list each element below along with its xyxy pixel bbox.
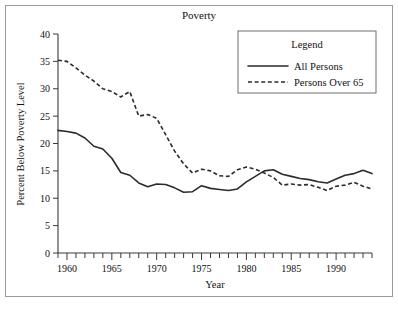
y-tick-label: 15 [40, 165, 50, 176]
x-axis: 1960196519701975198019851990 [57, 253, 372, 274]
x-axis-tick-labels: 1960196519701975198019851990 [57, 263, 346, 274]
chart-canvas: Poverty 0510152025303540 196019651970197… [0, 0, 398, 312]
y-axis-ticks [53, 34, 58, 253]
y-tick-label: 25 [40, 111, 50, 122]
x-tick-label: 1975 [192, 263, 212, 274]
y-tick-label: 20 [40, 138, 50, 149]
y-tick-label: 35 [40, 56, 50, 67]
legend: Legend All Persons Persons Over 65 [238, 31, 376, 93]
x-tick-label: 1970 [147, 263, 167, 274]
y-tick-label: 30 [40, 83, 50, 94]
x-tick-label: 1960 [57, 263, 77, 274]
x-tick-label: 1965 [102, 263, 122, 274]
y-axis-tick-labels: 0510152025303540 [40, 29, 50, 259]
legend-title: Legend [291, 39, 323, 50]
y-axis: 0510152025303540 [40, 29, 58, 259]
x-axis-label: Year [205, 279, 225, 290]
y-tick-label: 10 [40, 193, 50, 204]
y-tick-label: 0 [45, 248, 50, 259]
y-tick-label: 40 [40, 29, 50, 40]
chart-title: Poverty [182, 9, 217, 21]
legend-label-persons-over-65: Persons Over 65 [294, 77, 363, 88]
y-tick-label: 5 [45, 220, 50, 231]
x-tick-label: 1985 [281, 263, 301, 274]
x-tick-label: 1990 [326, 263, 346, 274]
poverty-chart-figure: Poverty 0510152025303540 196019651970197… [0, 0, 398, 312]
legend-label-all-persons: All Persons [294, 61, 343, 72]
y-axis-label: Percent Below Poverty Level [15, 82, 26, 205]
x-tick-label: 1980 [236, 263, 256, 274]
series-line-all-persons [58, 130, 372, 192]
x-axis-ticks [58, 253, 372, 260]
